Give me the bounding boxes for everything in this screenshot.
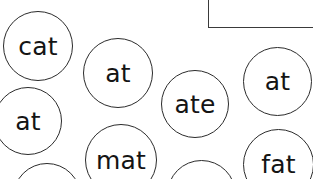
worksheet-page: catatatateatmatfat: [0, 0, 313, 179]
word-label: cat: [18, 34, 57, 59]
word-circle-at[interactable]: at: [243, 47, 312, 116]
word-label: fat: [261, 152, 296, 177]
word-circle-at[interactable]: at: [83, 38, 153, 108]
word-circle-fat[interactable]: fat: [243, 129, 313, 179]
word-label: at: [265, 69, 291, 94]
word-circle-cat[interactable]: cat: [3, 11, 73, 81]
word-circle-blank[interactable]: [13, 163, 81, 179]
word-label: at: [105, 61, 131, 86]
word-label: ate: [174, 92, 215, 117]
word-circle-blank[interactable]: [167, 160, 236, 179]
word-circle-at[interactable]: at: [0, 87, 62, 155]
corner-rule-vertical-line: [208, 0, 209, 28]
word-label: mat: [96, 148, 146, 173]
word-circle-ate[interactable]: ate: [161, 70, 229, 138]
word-label: at: [15, 109, 41, 134]
corner-rule-horizontal-line: [208, 27, 313, 28]
word-circle-mat[interactable]: mat: [85, 124, 157, 179]
